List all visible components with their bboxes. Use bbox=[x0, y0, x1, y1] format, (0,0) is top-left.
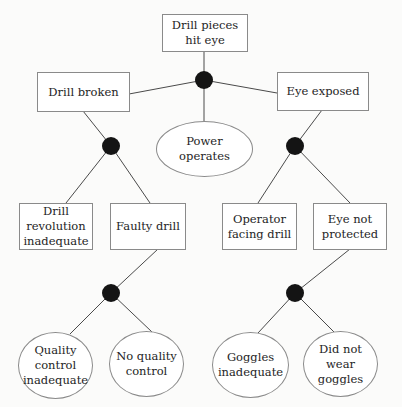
event-drill-revolution-inadequate: Drill revolution inadequate bbox=[19, 203, 93, 250]
and-gate-3-icon bbox=[286, 137, 304, 155]
event-eye-exposed: Eye exposed bbox=[277, 72, 369, 111]
and-gate-5-icon bbox=[286, 284, 304, 302]
connector-gate3-to-eye-not-protected bbox=[295, 146, 350, 203]
top-event-drill-pieces-hit-eye: Drill pieces hit eye bbox=[162, 14, 248, 52]
and-gate-4-icon bbox=[102, 284, 120, 302]
basic-event-no-quality-control: No quality control bbox=[109, 331, 184, 397]
basic-event-did-not-wear-goggles: Did not wear goggles bbox=[303, 331, 378, 397]
condition-power-operates: Power operates bbox=[156, 121, 253, 177]
fault-tree-diagram: Drill pieces hit eye Drill broken Power … bbox=[0, 0, 402, 407]
and-gate-2-icon bbox=[102, 137, 120, 155]
event-faulty-drill: Faulty drill bbox=[110, 203, 186, 250]
event-eye-not-protected: Eye not protected bbox=[313, 203, 387, 250]
connector-gate2-to-drill-revolution bbox=[66, 146, 111, 203]
connector-gate2-to-faulty-drill bbox=[111, 146, 150, 203]
event-operator-facing-drill: Operator facing drill bbox=[222, 203, 297, 250]
event-drill-broken: Drill broken bbox=[37, 72, 130, 112]
connector-gate1-to-drill-broken bbox=[129, 80, 204, 94]
basic-event-quality-control-inadequate: Quality control inadequate bbox=[18, 332, 93, 399]
connector-gate1-to-eye-exposed bbox=[204, 80, 277, 93]
connector-gate3-to-operator-facing bbox=[258, 146, 295, 203]
basic-event-goggles-inadequate: Goggles inadequate bbox=[212, 332, 289, 398]
connector-eye-not-protected-to-gate5 bbox=[295, 249, 350, 293]
connector-faulty-drill-to-gate4 bbox=[111, 249, 158, 293]
and-gate-1-icon bbox=[195, 71, 213, 89]
